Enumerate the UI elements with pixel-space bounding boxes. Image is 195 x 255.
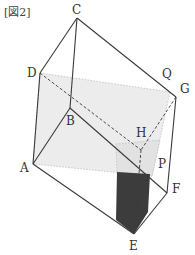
label-g: G	[180, 82, 190, 96]
label-f: F	[172, 182, 180, 196]
figure-title: [図2]	[4, 6, 31, 19]
label-b: B	[66, 114, 75, 128]
label-d: D	[27, 66, 37, 80]
label-h: H	[136, 126, 146, 140]
label-p: P	[158, 157, 166, 171]
inner-plane	[116, 140, 160, 176]
label-a: A	[19, 161, 29, 175]
label-c: C	[72, 3, 81, 17]
prism-diagram: [図2] C D B A Q G H P F E	[0, 0, 195, 255]
label-q: Q	[162, 67, 172, 81]
label-e: E	[129, 239, 138, 253]
